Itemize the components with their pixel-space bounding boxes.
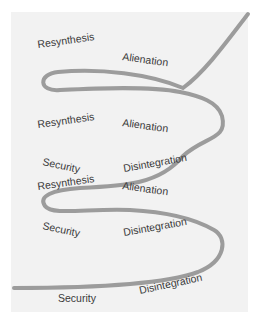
label-resynthesis-lower: Resynthesis	[37, 172, 95, 192]
label-alienation-lower: Alienation	[122, 179, 169, 197]
label-disintegration-middle: Disintegration	[122, 151, 187, 174]
label-disintegration-bottom: Disintegration	[138, 271, 203, 296]
label-resynthesis-middle: Resynthesis	[37, 110, 95, 130]
label-alienation-middle: Alienation	[122, 116, 169, 134]
labels-layer: Resynthesis Alienation Resynthesis Alien…	[0, 0, 260, 324]
label-security-lower: Security	[42, 219, 82, 239]
label-disintegration-lower: Disintegration	[122, 215, 187, 238]
label-security-bottom: Security	[58, 292, 97, 304]
label-security-middle: Security	[42, 155, 82, 175]
label-resynthesis-top: Resynthesis	[37, 30, 95, 50]
label-alienation-top: Alienation	[122, 50, 169, 68]
